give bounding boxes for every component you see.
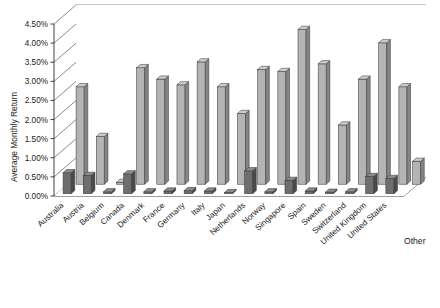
y-tick-label: 0.00% [25,192,48,201]
y-tick-label: 2.50% [25,96,48,105]
bar-back-netherlands [258,66,270,184]
bar-back-canada [137,64,149,184]
bar-back-denmark [157,76,169,184]
bar-front-australia [63,169,75,193]
bar-back-germany [197,59,209,185]
y-tick-label: 0.50% [25,173,48,182]
bar-front-united-kingdom [366,173,378,193]
bar-back-italy [217,84,229,185]
bar-front-netherlands [245,168,257,194]
bar-back-united-states [399,84,411,185]
bar-back-australia [76,84,88,185]
y-tick-label: 1.50% [25,135,48,144]
bar-back-switzerland [359,76,371,184]
bar-back-france [177,82,189,185]
bar-back-spain [318,61,330,185]
average-monthly-return-bar-chart: 0.00%0.50%1.00%1.50%2.00%2.50%3.00%3.50%… [0,0,440,308]
bar-other [413,158,425,184]
bar-front-united-states [386,175,398,193]
bar-front-singapore [285,177,297,194]
y-tick-label: 3.00% [25,77,48,86]
bar-back-sweden [338,122,350,184]
bar-back-norway [278,68,290,184]
y-tick-label: 3.50% [25,58,48,67]
depth-axis-label-other: Other [404,236,426,246]
bar-front-austria [83,172,95,194]
back-wall-group [76,5,426,177]
y-tick-label: 2.00% [25,116,48,125]
y-tick-label: 4.00% [25,39,48,48]
y-tick-label: 4.50% [25,20,48,29]
y-axis-title: Average Monthly Return [9,92,19,182]
bar-back-singapore [298,26,310,184]
bar-front-canada [124,171,136,194]
bar-back-austria [96,133,108,184]
bar-back-united-kingdom [379,40,391,185]
y-tick-label: 1.00% [25,154,48,163]
chart-container: 0.00%0.50%1.00%1.50%2.00%2.50%3.00%3.50%… [0,0,440,308]
